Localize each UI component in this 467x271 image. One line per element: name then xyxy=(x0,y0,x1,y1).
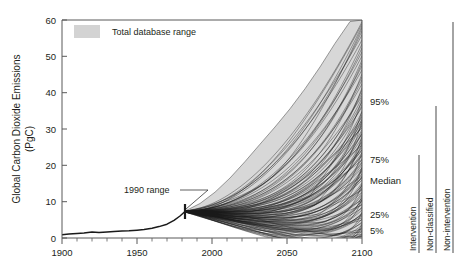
category-label-intervention: Intervention xyxy=(408,206,418,251)
legend-label-total-database-range: Total database range xyxy=(112,27,196,37)
chart-background xyxy=(0,0,467,271)
y-axis-title-main: Global Carbon Dioxide Emissions xyxy=(11,55,22,204)
percentile-label-95: 95% xyxy=(370,96,390,107)
y-tick-label: 10 xyxy=(45,196,56,207)
x-tick-label: 2050 xyxy=(276,247,297,258)
chart-svg: 60 50 40 30 20 10 0 1900 1950 2000 2050 … xyxy=(0,0,467,271)
percentile-label-25: 25% xyxy=(370,209,390,220)
percentile-label-median: Median xyxy=(370,175,401,186)
y-tick-label: 40 xyxy=(45,87,56,98)
x-tick-label: 1950 xyxy=(126,247,147,258)
chart-legend: Total database range xyxy=(74,25,196,38)
x-tick-label: 1900 xyxy=(51,247,72,258)
percentile-label-5: 5% xyxy=(370,225,384,236)
y-tick-label: 50 xyxy=(45,51,56,62)
x-tick-label: 2000 xyxy=(201,247,222,258)
y-tick-label: 60 xyxy=(45,15,56,26)
y-tick-label: 0 xyxy=(51,233,56,244)
legend-swatch-total-database-range xyxy=(74,25,100,38)
chart-figure: 60 50 40 30 20 10 0 1900 1950 2000 2050 … xyxy=(0,0,467,271)
category-label-non-intervention: Non-intervention xyxy=(442,188,452,251)
category-label-non-classified: Non-classified xyxy=(425,197,435,251)
annotation-1990-range-label: 1990 range xyxy=(124,185,170,195)
y-tick-label: 20 xyxy=(45,160,56,171)
percentile-label-75: 75% xyxy=(370,154,390,165)
x-tick-label: 2100 xyxy=(351,247,372,258)
y-tick-label: 30 xyxy=(45,124,56,135)
y-axis-title-units: (PgC) xyxy=(24,126,35,152)
